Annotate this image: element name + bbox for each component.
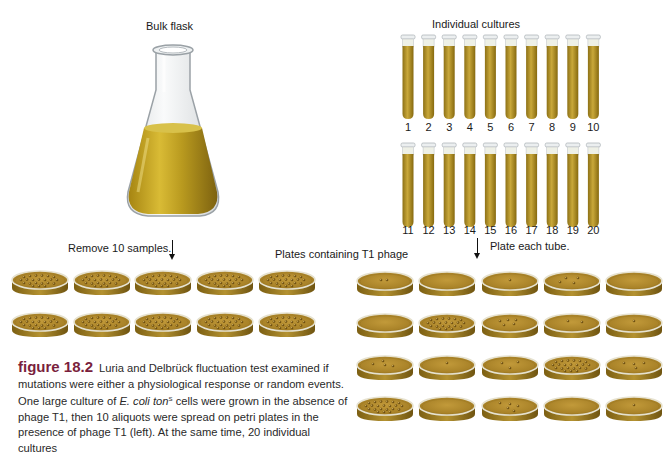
figure-caption: figure 18.2Luria and Delbrück fluctuatio…	[18, 359, 348, 456]
figure-label: figure 18.2	[18, 358, 93, 375]
bulk-plates	[12, 271, 315, 337]
caption-species: E. coli ton	[119, 395, 168, 407]
individual-plates	[357, 272, 662, 421]
